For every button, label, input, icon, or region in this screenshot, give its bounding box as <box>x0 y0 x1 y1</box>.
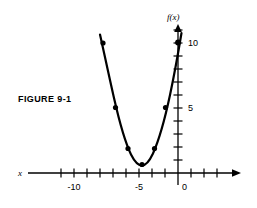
parabola-curve <box>100 33 182 166</box>
y-tick-label-5: 5 <box>188 103 193 113</box>
x-tick-label-zero: 0 <box>182 182 187 192</box>
x-tick-label-neg10: -10 <box>67 182 80 192</box>
figure-container: FIGURE 9-1 <box>0 0 257 208</box>
x-axis <box>28 169 241 177</box>
x-axis-label: x <box>17 168 22 178</box>
graph-plot: x f(x) -10 -5 0 5 10 <box>0 0 257 208</box>
y-axis-label: f(x) <box>167 12 180 22</box>
y-tick-label-10: 10 <box>188 38 198 48</box>
x-tick-label-neg5: -5 <box>135 182 143 192</box>
